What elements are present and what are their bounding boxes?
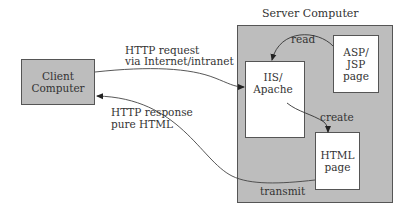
request-label-line2: via Internet/intranet — [125, 55, 234, 67]
transmit-label: transmit — [260, 185, 305, 197]
response-label-line2: pure HTML — [111, 118, 173, 130]
request-arrow — [95, 69, 244, 87]
read-label: read — [291, 33, 315, 45]
response-label-line1: HTTP response — [111, 106, 193, 118]
connectors — [0, 0, 413, 214]
create-label: create — [320, 111, 354, 123]
